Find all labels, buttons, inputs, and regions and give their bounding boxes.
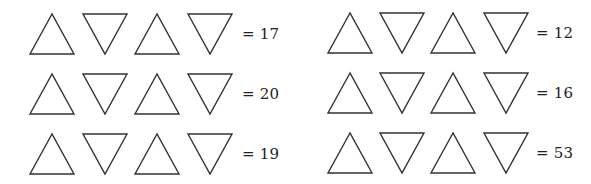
up-triangle-icon	[430, 132, 476, 174]
down-triangle-icon	[379, 132, 425, 174]
up-triangle-icon	[430, 12, 476, 54]
up-triangle-icon	[327, 72, 373, 114]
equation-row: = 53	[0, 132, 591, 176]
down-triangle-icon	[379, 72, 425, 114]
down-triangle-icon	[379, 12, 425, 54]
equation-result: = 16	[536, 84, 573, 102]
up-triangle-icon	[327, 12, 373, 54]
equation-row: = 12	[0, 12, 591, 56]
down-triangle-icon	[483, 12, 529, 54]
up-triangle-icon	[430, 72, 476, 114]
equation-result: = 12	[536, 24, 573, 42]
equation-result: = 53	[536, 144, 573, 162]
equation-row: = 16	[0, 72, 591, 116]
down-triangle-icon	[483, 132, 529, 174]
down-triangle-icon	[483, 72, 529, 114]
up-triangle-icon	[327, 132, 373, 174]
